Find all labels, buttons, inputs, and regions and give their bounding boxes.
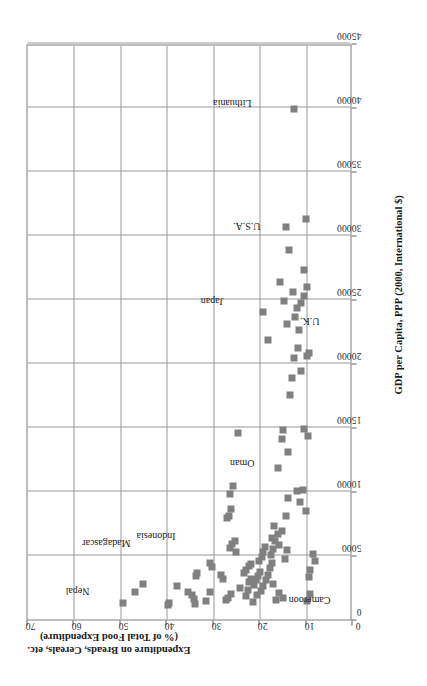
data-point [244,586,251,593]
plot-area [26,44,351,620]
annotation-label: Cameroon [288,594,330,605]
data-point [300,292,307,299]
y-tick-label: 0 [355,620,360,630]
data-point [284,448,291,455]
data-point [282,512,289,519]
y-tick-label: 40 [164,620,174,630]
gridline-horizontal [213,45,214,619]
annotation-label: U.S.A. [233,220,261,231]
data-point [279,594,286,601]
data-point [268,559,275,566]
gridline-vertical [27,42,350,43]
x-tick-mark [351,171,356,172]
data-point [278,435,285,442]
data-point [191,600,198,607]
data-point [295,326,302,333]
data-point [236,584,243,591]
x-tick-label: 0 [356,606,361,616]
data-point [249,598,256,605]
data-point [302,215,309,222]
annotation-label: Lithuania [213,97,251,108]
annotation-label: Madagascar [82,537,130,548]
data-point [286,392,293,399]
data-point [173,582,180,589]
data-point [296,498,303,505]
data-point [247,560,254,567]
data-point [256,568,263,575]
x-tick-mark [351,427,356,428]
data-point [231,537,238,544]
x-axis-title: GDP per Capita, PPP (2000, International… [392,195,403,394]
gridline-vertical [27,234,350,235]
y-tick-label: 60 [72,620,82,630]
data-point [259,308,266,315]
annotation-label: Indonesia [136,530,175,541]
data-point [225,512,232,519]
data-point [119,599,126,606]
data-point [290,105,297,112]
data-point [299,486,306,493]
x-tick-mark [351,235,356,236]
data-point [261,543,268,550]
data-point [297,299,304,306]
x-tick-label: 30000 [336,222,361,232]
x-tick-mark [351,491,356,492]
data-point [275,541,282,548]
annotation-label: Japan [201,295,224,306]
data-point [131,588,138,595]
data-point [276,278,283,285]
gridline-horizontal [120,45,121,619]
data-point [202,597,209,604]
chart-figure: 0500010000150002000025000300003500040000… [0,0,427,686]
data-point [269,580,276,587]
y-tick-label: 10 [304,620,314,630]
x-tick-mark [351,555,356,556]
x-tick-label: 5000 [341,542,361,552]
data-point [311,557,318,564]
y-tick-label: 50 [118,620,128,630]
x-tick-mark [351,43,356,44]
data-point [280,297,287,304]
x-tick-label: 25000 [336,286,361,296]
data-point [268,534,275,541]
data-point [300,425,307,432]
y-axis-title-line2: (% of Total Food Expenditure) [27,630,190,643]
data-point [294,344,301,351]
x-tick-label: 45000 [336,30,361,40]
data-point [264,336,271,343]
data-point [274,464,281,471]
gridline-vertical [27,170,350,171]
data-point [217,571,224,578]
data-point [283,546,290,553]
y-tick-label: 70 [25,620,35,630]
data-point [304,432,311,439]
x-tick-label: 20000 [336,350,361,360]
gridline-horizontal [259,45,260,619]
data-point [232,548,239,555]
data-point [289,288,296,295]
data-point [291,313,298,320]
chart-rotated-canvas: 0500010000150002000025000300003500040000… [0,0,427,686]
y-tick-label: 20 [257,620,267,630]
data-point [229,482,236,489]
x-tick-label: 15000 [336,414,361,424]
data-point [208,563,215,570]
data-point [270,522,277,529]
gridline-vertical [27,106,350,107]
data-point [282,223,289,230]
data-point [278,527,285,534]
x-tick-label: 40000 [336,94,361,104]
data-point [284,494,291,501]
x-tick-label: 35000 [336,158,361,168]
data-point [305,349,312,356]
data-point [285,246,292,253]
data-point [139,580,146,587]
annotation-label: U.K. [300,315,319,326]
annotation-label: Nepal [65,585,89,596]
y-tick-mark [351,620,352,625]
gridline-horizontal [73,45,74,619]
data-point [283,320,290,327]
gridline-horizontal [306,45,307,619]
data-point [300,266,307,273]
data-point [165,600,172,607]
